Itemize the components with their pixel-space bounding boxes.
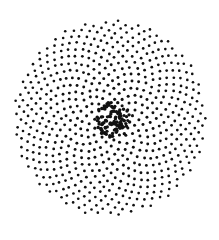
dot xyxy=(183,101,186,104)
dot xyxy=(157,48,160,51)
dot xyxy=(145,149,148,152)
dot xyxy=(163,62,166,65)
center-dot xyxy=(96,116,99,119)
dot xyxy=(80,156,83,159)
dot xyxy=(83,195,86,198)
dot xyxy=(46,140,49,143)
dot xyxy=(154,177,157,180)
dot xyxy=(92,68,95,71)
dot xyxy=(145,129,148,132)
dot xyxy=(132,204,135,207)
dot xyxy=(71,77,74,80)
dot xyxy=(64,30,67,33)
dot xyxy=(201,137,204,140)
dot xyxy=(60,117,63,120)
dot xyxy=(39,97,42,100)
dot xyxy=(69,105,72,108)
dot xyxy=(160,40,163,43)
dot xyxy=(153,191,156,194)
dot xyxy=(122,44,125,47)
dot xyxy=(143,69,146,72)
dot xyxy=(186,79,189,82)
dot xyxy=(14,100,17,103)
dot xyxy=(149,92,152,95)
dot xyxy=(93,127,96,130)
dot xyxy=(84,211,87,214)
dot xyxy=(160,190,163,193)
dot xyxy=(93,133,96,136)
center-dot xyxy=(125,109,128,112)
dot xyxy=(124,80,127,83)
dot xyxy=(87,65,90,68)
dot xyxy=(124,24,127,27)
dot xyxy=(178,114,181,117)
dot xyxy=(45,146,48,149)
dot xyxy=(110,37,113,40)
dot xyxy=(168,181,171,184)
dot xyxy=(103,34,106,37)
dot xyxy=(143,38,146,41)
center-dot xyxy=(96,126,99,129)
dot xyxy=(146,186,149,189)
dot xyxy=(112,87,115,90)
dot xyxy=(100,27,103,30)
dot xyxy=(165,69,168,72)
dot xyxy=(55,122,58,125)
dot xyxy=(87,157,90,160)
dot xyxy=(73,29,76,32)
dot xyxy=(58,153,61,156)
dot xyxy=(115,193,118,196)
dot xyxy=(146,135,149,138)
dot xyxy=(49,190,52,193)
dot xyxy=(90,110,93,113)
center-dot xyxy=(122,108,125,111)
dot xyxy=(155,57,158,60)
dot xyxy=(83,170,86,173)
dot xyxy=(62,37,65,40)
dot xyxy=(98,82,101,85)
dot xyxy=(108,189,111,192)
dot xyxy=(26,104,29,107)
dot xyxy=(72,201,75,204)
dot xyxy=(138,33,141,36)
center-dot xyxy=(123,132,126,135)
dot xyxy=(59,78,62,81)
dot xyxy=(77,77,80,80)
dot xyxy=(113,98,116,101)
dot xyxy=(88,150,91,153)
dot xyxy=(128,101,131,104)
dot xyxy=(133,178,136,181)
dot xyxy=(45,183,48,186)
dot xyxy=(130,73,133,76)
dot xyxy=(133,61,136,64)
dot xyxy=(20,118,23,121)
dot xyxy=(49,176,52,179)
dot xyxy=(129,87,132,90)
dot xyxy=(127,95,130,98)
center-dot xyxy=(97,108,100,111)
dot xyxy=(68,98,71,101)
dot xyxy=(132,45,135,48)
dot xyxy=(127,183,130,186)
dot xyxy=(170,133,173,136)
dot xyxy=(158,163,161,166)
dot xyxy=(32,151,35,154)
dot xyxy=(180,133,183,136)
dot xyxy=(15,113,18,116)
dot xyxy=(74,184,77,187)
dot xyxy=(61,140,64,143)
dot xyxy=(87,135,90,138)
dot xyxy=(121,67,124,70)
dot xyxy=(151,72,154,75)
dot xyxy=(49,107,52,110)
dot xyxy=(55,174,58,177)
dot xyxy=(38,52,41,55)
dot xyxy=(155,96,158,99)
dot xyxy=(74,48,77,51)
dot xyxy=(138,135,141,138)
dot xyxy=(76,84,79,87)
dot xyxy=(87,73,90,76)
dot xyxy=(56,103,59,106)
dot xyxy=(53,80,56,83)
dot xyxy=(173,76,176,79)
